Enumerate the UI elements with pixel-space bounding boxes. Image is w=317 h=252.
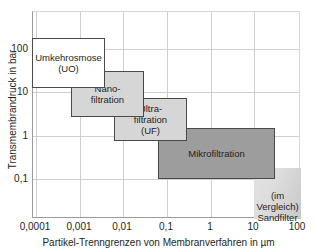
gridline-x-1: [211, 12, 212, 217]
region-mikrofiltration-label: Mikrofiltration: [188, 148, 245, 159]
xtick-label-2: 0,001: [66, 221, 91, 232]
y-axis-title: Transmembrandruck in bar: [7, 35, 18, 185]
membrane-filtration-chart: (im Vergleich) Sandfilter Mikrofiltratio…: [0, 0, 317, 252]
region-sandfilter-label: (im Vergleich) Sandfilter: [254, 190, 301, 223]
xtick-label-4: 0,1: [159, 221, 173, 232]
xtick-label-1: 0,0001: [20, 221, 51, 232]
region-umkehrosmose-label: Umkehrosmose (UO): [35, 52, 102, 74]
x-axis-title: Partikel-Trenngrenzen von Membranverfahr…: [0, 237, 317, 248]
xtick-label-3: 0,01: [112, 221, 131, 232]
xtick-label-5: 1: [207, 221, 213, 232]
region-umkehrosmose: Umkehrosmose (UO): [32, 38, 105, 88]
xtick-label-6: 10: [247, 221, 258, 232]
plot-area: (im Vergleich) Sandfilter Mikrofiltratio…: [32, 11, 300, 218]
xtick-label-7: 100: [289, 221, 306, 232]
